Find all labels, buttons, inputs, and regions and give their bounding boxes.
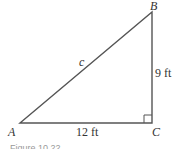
figure-caption: Figure 10.22 — [10, 143, 61, 149]
right-angle-marker — [144, 115, 152, 123]
triangle-abc — [20, 12, 152, 123]
vertex-label-c: C — [152, 126, 160, 138]
side-label-c: c — [79, 56, 84, 68]
vertex-label-a: A — [8, 126, 15, 138]
side-label-ac: 12 ft — [76, 126, 98, 138]
side-label-bc: 9 ft — [155, 67, 171, 79]
vertex-label-b: B — [150, 0, 157, 12]
